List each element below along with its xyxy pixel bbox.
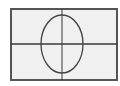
- ellipse-diagram: [0, 0, 120, 86]
